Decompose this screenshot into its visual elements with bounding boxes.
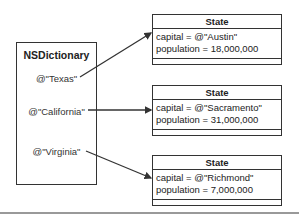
capital-field: capital = @"Richmond"	[156, 172, 281, 184]
population-field: population = 18,000,000	[156, 43, 281, 55]
key-california: @"California"	[17, 106, 96, 117]
key-texas: @"Texas"	[17, 73, 96, 84]
state-header: State	[153, 86, 281, 100]
state-body: capital = @"Sacramento" population = 31,…	[153, 100, 281, 130]
nsdictionary-box: NSDictionary @"Texas" @"California" @"Vi…	[16, 42, 97, 185]
state-box-texas: State capital = @"Austin" population = 1…	[152, 14, 282, 65]
capital-field: capital = @"Austin"	[156, 31, 281, 43]
state-header: State	[153, 156, 281, 170]
key-virginia: @"Virginia"	[17, 146, 96, 157]
state-box-california: State capital = @"Sacramento" population…	[152, 85, 282, 136]
state-body: capital = @"Richmond" population = 7,000…	[153, 170, 281, 200]
state-box-virginia: State capital = @"Richmond" population =…	[152, 155, 282, 206]
nsdictionary-title: NSDictionary	[17, 49, 96, 61]
population-field: population = 31,000,000	[156, 114, 281, 126]
state-body: capital = @"Austin" population = 18,000,…	[153, 29, 281, 59]
state-header: State	[153, 15, 281, 29]
capital-field: capital = @"Sacramento"	[156, 102, 281, 114]
bottom-separator	[0, 212, 299, 214]
population-field: population = 7,000,000	[156, 184, 281, 196]
